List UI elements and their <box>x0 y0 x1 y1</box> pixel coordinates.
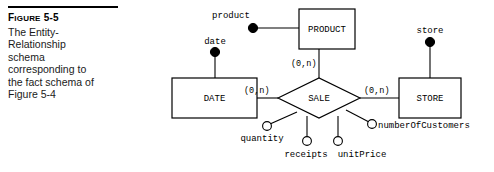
entity-product[interactable]: PRODUCT <box>299 9 355 49</box>
entity-store-label: STORE <box>416 94 443 104</box>
relationship-sale-label: SALE <box>308 94 330 104</box>
er-diagram: PRODUCT DATE STORE SALE product date <box>0 0 494 172</box>
cardinality-product-sale: (0,n) <box>291 59 317 69</box>
attribute-product-bullet-icon[interactable] <box>248 23 257 32</box>
attribute-date[interactable]: date <box>204 37 226 57</box>
cardinality-sale-store: (0,n) <box>364 86 390 96</box>
figure-container: FIGURE 5-5 The Entity- Relationship sche… <box>0 0 494 172</box>
attribute-receipts-circle-icon[interactable] <box>303 137 312 146</box>
attribute-product-label: product <box>212 11 250 21</box>
relationship-sale[interactable]: SALE <box>278 78 360 118</box>
attribute-receipts-label: receipts <box>284 150 327 160</box>
attribute-receipts[interactable]: receipts <box>284 137 327 160</box>
attribute-store-bullet-icon[interactable] <box>425 37 434 46</box>
attribute-quantity-circle-icon[interactable] <box>263 122 272 131</box>
attribute-unit-price[interactable]: unitPrice <box>334 137 387 160</box>
attribute-store-label: store <box>416 26 443 36</box>
edge-sale-to-number-of-customers <box>346 110 369 122</box>
attribute-quantity[interactable]: quantity <box>240 122 284 144</box>
entity-date[interactable]: DATE <box>172 78 257 118</box>
edge-sale-to-quantity <box>270 112 297 124</box>
attribute-number-of-customers[interactable]: numberOfCustomers <box>368 120 470 131</box>
attribute-unit-price-circle-icon[interactable] <box>334 137 343 146</box>
attribute-unit-price-label: unitPrice <box>338 150 387 160</box>
attribute-store[interactable]: store <box>416 26 443 47</box>
entity-store[interactable]: STORE <box>399 78 461 118</box>
attribute-date-bullet-icon[interactable] <box>210 47 219 56</box>
attribute-number-of-customers-label: numberOfCustomers <box>378 121 470 131</box>
attribute-product[interactable]: product <box>212 11 258 33</box>
attribute-quantity-label: quantity <box>240 134 284 144</box>
attribute-number-of-customers-circle-icon[interactable] <box>368 120 377 129</box>
cardinality-date-sale: (0,n) <box>244 86 270 96</box>
entity-date-label: DATE <box>204 94 226 104</box>
attribute-date-label: date <box>204 37 226 47</box>
entity-product-label: PRODUCT <box>308 25 346 35</box>
